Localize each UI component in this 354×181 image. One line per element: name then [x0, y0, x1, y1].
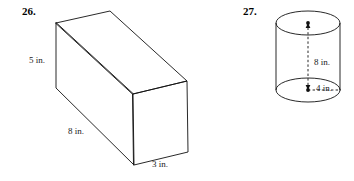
prism-right-face [133, 81, 188, 165]
cylinder-radius-label: 4 in. [316, 83, 332, 93]
figures-canvas [0, 0, 354, 181]
rectangular-prism-figure [56, 11, 188, 165]
prism-front-face [56, 23, 134, 165]
cylinder-height-label: 8 in. [314, 57, 330, 67]
prism-height-label: 5 in. [29, 55, 45, 65]
cylinder-height-arrow-down [306, 85, 311, 90]
prism-length-label: 8 in. [68, 126, 84, 136]
prism-top-face [56, 11, 187, 94]
prism-depth-label: 3 in. [152, 159, 168, 169]
cylinder-bottom-center-dot [306, 88, 310, 92]
cylinder-height-dimension [306, 21, 311, 92]
cylinder-top-center-dot [306, 21, 310, 25]
cylinder-height-arrow-up [306, 23, 311, 28]
cylinder-top-ellipse [276, 11, 340, 35]
problem-number-27: 27. [243, 5, 257, 17]
worksheet-page: 26. 27. [0, 0, 354, 181]
problem-number-26: 26. [22, 5, 36, 17]
